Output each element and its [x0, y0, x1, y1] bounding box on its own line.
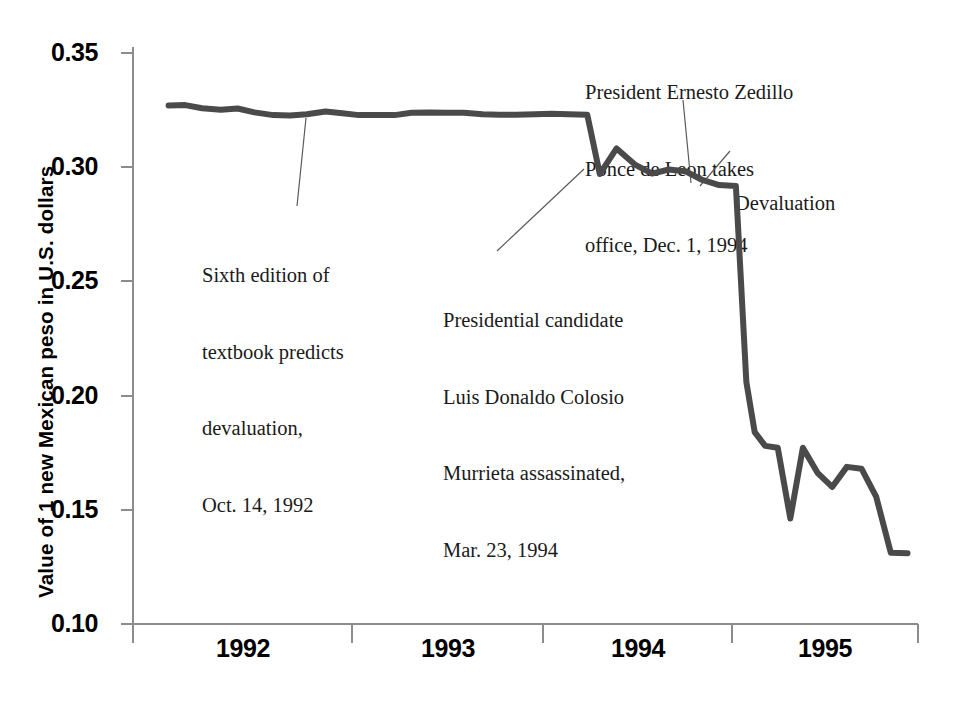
leader-line-colosio [497, 169, 584, 251]
plot-canvas [0, 0, 957, 706]
y-axis-ticks [121, 53, 133, 624]
x-axis-ticks [133, 624, 918, 643]
annotation-leader-lines [297, 100, 730, 251]
peso-value-data-line [169, 105, 908, 553]
axis-lines [133, 47, 918, 624]
peso-value-line-chart: Value of 1 new Mexican peso in U.S. doll… [0, 0, 957, 706]
leader-line-textbook [297, 118, 306, 206]
